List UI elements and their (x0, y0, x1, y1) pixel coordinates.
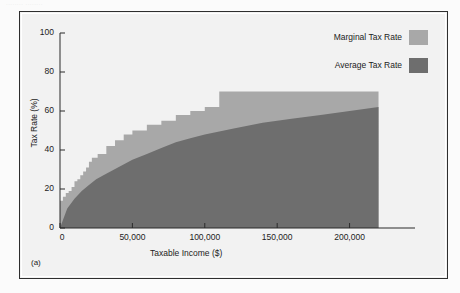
chart-legend: Marginal Tax RateAverage Tax Rate (258, 26, 428, 82)
x-axis-tick-label: 200,000 (324, 232, 376, 242)
legend-item-marginal-tax-rate[interactable]: Marginal Tax Rate (258, 26, 428, 48)
y-axis-tick-label: 20 (28, 183, 54, 193)
x-axis-tick-label: 50,000 (106, 232, 158, 242)
legend-swatch-marginal-tax-rate (409, 30, 428, 45)
panel-letter: (a) (31, 258, 41, 267)
y-axis-tick-label: 60 (28, 105, 54, 115)
legend-label: Average Tax Rate (335, 60, 402, 70)
y-axis-tick-label: 100 (28, 27, 54, 37)
x-axis-tick-label: 0 (36, 232, 88, 242)
y-axis-tick-label: 40 (28, 144, 54, 154)
legend-swatch-average-tax-rate (409, 58, 428, 73)
legend-label: Marginal Tax Rate (334, 32, 402, 42)
y-axis-tick-label: 80 (28, 66, 54, 76)
x-axis-tick-label: 100,000 (179, 232, 231, 242)
x-axis-tick-label: 150,000 (251, 232, 303, 242)
x-axis-label: Taxable Income ($) (150, 248, 222, 258)
y-axis-tick-label: 0 (28, 222, 54, 232)
legend-item-average-tax-rate[interactable]: Average Tax Rate (258, 54, 428, 76)
